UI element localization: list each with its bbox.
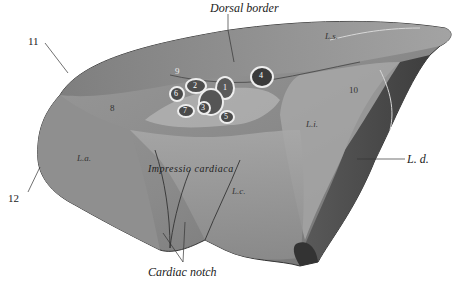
label-vessel-3: 3: [201, 104, 205, 112]
label-la: L.a.: [77, 154, 91, 163]
label-cardiac-notch: Cardiac notch: [148, 266, 217, 278]
label-dorsal-border: Dorsal border: [210, 2, 279, 14]
label-li: L.i.: [306, 120, 318, 129]
label-vessel-5: 5: [224, 113, 228, 121]
leader-11: [45, 43, 68, 73]
label-vessel-7: 7: [183, 107, 187, 115]
anatomy-figure: Dorsal border 11 12 L.s. 8 9 10 L.a. L.i…: [0, 0, 461, 283]
label-9: 9: [175, 67, 180, 76]
label-8: 8: [110, 104, 115, 113]
label-impressio-cardiaca: Impressio cardiaca: [148, 164, 234, 174]
label-12: 12: [8, 193, 19, 204]
label-11: 11: [28, 36, 39, 47]
label-vessel-4: 4: [259, 72, 263, 80]
label-vessel-6: 6: [174, 90, 178, 98]
label-ls: L.s.: [325, 32, 338, 41]
leader-12: [28, 167, 40, 192]
label-ld: L. d.: [407, 153, 429, 165]
label-vessel-1: 1: [223, 84, 227, 92]
label-10: 10: [349, 86, 358, 95]
label-vessel-2: 2: [193, 82, 197, 90]
label-lc: L.c.: [232, 187, 246, 196]
lung-illustration: [0, 0, 461, 283]
